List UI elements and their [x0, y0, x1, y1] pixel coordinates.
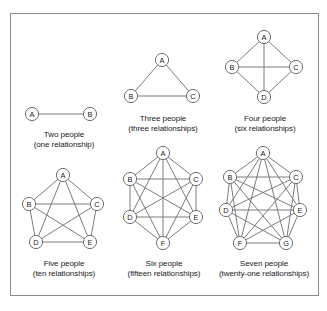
graph-diagram-two-people: AB	[18, 66, 110, 128]
relationship-edge	[235, 157, 257, 173]
person-node-label: B	[128, 175, 133, 184]
person-node-a: A	[56, 168, 69, 181]
person-node-d: D	[123, 210, 136, 223]
person-node-label: C	[293, 63, 299, 72]
caption-line-primary: Four people	[234, 114, 295, 124]
person-node-c: C	[90, 197, 103, 210]
person-node-d: D	[219, 203, 232, 216]
graph-panel-five-people: ABCDE Five people (ten relationships)	[14, 162, 114, 278]
person-node-c: C	[289, 60, 302, 73]
relationship-edge	[166, 65, 188, 91]
person-node-b: B	[225, 60, 238, 73]
person-node-label: E	[194, 213, 199, 222]
person-node-label: D	[261, 93, 266, 102]
caption-line-primary: Six people	[128, 259, 201, 269]
graph-diagram-three-people: ABC	[117, 44, 209, 112]
person-node-label: D	[33, 238, 38, 247]
caption-line-primary: Seven people	[219, 259, 309, 269]
person-node-label: B	[230, 63, 235, 72]
relationship-edge	[38, 181, 60, 236]
relationship-edge	[135, 221, 158, 239]
person-node-label: B	[88, 110, 93, 119]
relationship-edge	[297, 184, 299, 204]
person-node-b: B	[223, 170, 236, 183]
caption-line-primary: Five people	[33, 259, 95, 269]
person-node-b: B	[22, 197, 35, 210]
relationship-edge	[269, 42, 291, 63]
person-node-label: B	[27, 200, 32, 209]
person-node-a: A	[257, 30, 270, 43]
person-node-label: F	[238, 239, 243, 248]
person-node-label: B	[129, 92, 134, 101]
relationship-edge	[42, 207, 92, 238]
person-node-a: A	[25, 107, 38, 120]
graph-diagram-five-people: ABCDE	[18, 162, 110, 257]
caption-line-secondary: (twenty-one relationships)	[219, 269, 309, 279]
relationship-edge	[237, 72, 259, 93]
person-node-label: E	[298, 206, 303, 215]
relationship-edge	[236, 180, 294, 207]
graph-grid: AB Two people (one relationship) ABC Thr…	[11, 14, 318, 295]
person-node-g: G	[279, 236, 292, 249]
person-node-a: A	[256, 146, 269, 159]
graph-diagram-four-people: ABCD	[219, 24, 311, 112]
person-node-label: C	[190, 92, 196, 101]
relationship-edge	[268, 157, 290, 173]
relationship-edge	[166, 159, 193, 211]
person-node-f: F	[156, 236, 169, 249]
relationship-edge	[227, 184, 229, 204]
caption-line-primary: Two people	[34, 130, 95, 140]
relationship-edge	[30, 210, 35, 235]
caption-line-primary: Three people	[128, 114, 197, 124]
caption-line-secondary: (one relationship)	[34, 140, 95, 150]
relationship-edge	[135, 65, 157, 91]
person-node-label: E	[88, 238, 93, 247]
caption-seven-people: Seven people (twenty-one relationships)	[219, 259, 309, 278]
relationship-edge	[168, 157, 191, 175]
person-node-label: D	[127, 213, 132, 222]
caption-line-secondary: (three relationships)	[128, 124, 197, 134]
graph-panel-four-people: ABCD Four people (six relationships)	[214, 24, 316, 133]
caption-four-people: Four people (six relationships)	[234, 114, 295, 133]
person-node-b: B	[123, 172, 136, 185]
graph-panel-two-people: AB Two people (one relationship)	[15, 66, 113, 149]
graph-panel-six-people: ABCDEF Six people (fifteen relationships…	[111, 142, 217, 278]
graph-panel-seven-people: ABCDEFG Seven people (twenty-one relatio…	[209, 142, 319, 278]
relationship-edge	[232, 180, 290, 207]
person-node-d: D	[29, 235, 42, 248]
caption-six-people: Six people (fifteen relationships)	[128, 259, 201, 278]
person-node-label: F	[161, 239, 166, 248]
person-node-label: A	[160, 56, 165, 65]
relationship-edge	[166, 185, 193, 237]
person-node-label: A	[161, 149, 166, 158]
relationship-edge	[91, 210, 96, 235]
person-node-label: C	[293, 173, 299, 182]
caption-two-people: Two people (one relationship)	[34, 130, 95, 149]
person-node-d: D	[257, 90, 270, 103]
caption-line-secondary: (six relationships)	[234, 124, 295, 134]
graph-panel-three-people: ABC Three people (three relationships)	[111, 44, 215, 133]
person-node-c: C	[189, 172, 202, 185]
person-node-label: A	[262, 33, 267, 42]
figure-frame: AB Two people (one relationship) ABC Thr…	[10, 13, 319, 296]
person-node-label: A	[30, 110, 35, 119]
person-node-e: E	[189, 210, 202, 223]
relationship-edge	[237, 42, 259, 63]
person-node-label: B	[228, 173, 233, 182]
person-node-e: E	[83, 235, 96, 248]
relationship-edge	[133, 159, 160, 211]
caption-line-secondary: (ten relationships)	[33, 269, 95, 279]
relationship-edge	[65, 181, 87, 236]
person-node-b: B	[124, 89, 137, 102]
person-node-label: D	[223, 206, 228, 215]
person-node-c: C	[289, 170, 302, 183]
caption-three-people: Three people (three relationships)	[128, 114, 197, 133]
graph-diagram-six-people: ABCDEF	[118, 142, 210, 257]
person-node-a: A	[156, 146, 169, 159]
relationship-edge	[133, 185, 160, 237]
person-node-c: C	[186, 89, 199, 102]
person-node-label: G	[283, 239, 289, 248]
person-node-b: B	[83, 107, 96, 120]
relationship-edge	[35, 207, 85, 238]
person-node-label: A	[61, 171, 66, 180]
